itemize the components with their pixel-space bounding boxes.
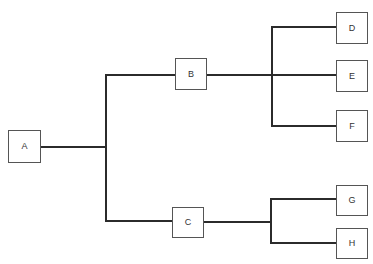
node-label-d: D [349, 24, 356, 33]
node-label-b: B [188, 70, 194, 79]
node-label-a: A [21, 142, 27, 151]
node-label-f: F [349, 122, 355, 131]
node-a[interactable]: A [8, 130, 41, 163]
node-f[interactable]: F [336, 110, 368, 142]
node-e[interactable]: E [336, 60, 368, 92]
node-d[interactable]: D [336, 12, 368, 44]
node-label-c: C [185, 218, 192, 227]
tree-diagram: ABCDEFGH [0, 0, 373, 264]
node-c[interactable]: C [172, 207, 204, 238]
node-h[interactable]: H [336, 228, 368, 259]
node-b[interactable]: B [175, 58, 207, 90]
node-label-h: H [349, 239, 356, 248]
node-label-e: E [349, 72, 355, 81]
node-g[interactable]: G [336, 185, 368, 216]
node-label-g: G [348, 196, 355, 205]
